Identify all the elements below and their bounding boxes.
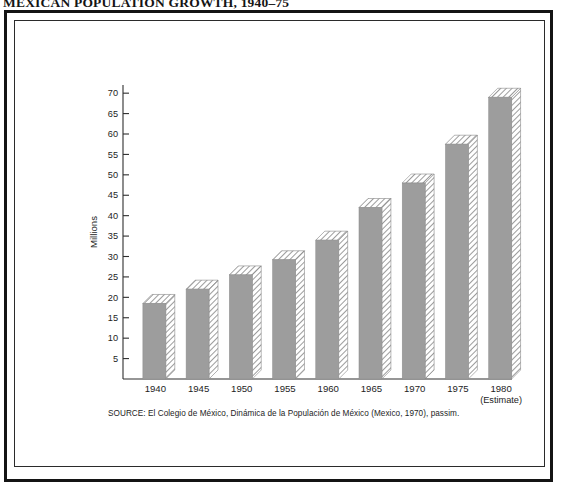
bar-side-face: [166, 294, 175, 379]
bar-series: [143, 88, 521, 379]
y-axis-tick-label: 70: [108, 88, 118, 98]
bar-side-face: [339, 231, 348, 379]
x-axis-tick-label: 1970: [404, 383, 425, 394]
y-axis: 510152025303540455055606570 Millions: [88, 85, 129, 379]
bar-front-face: [316, 240, 339, 379]
x-axis-tick-label: 1955: [274, 383, 295, 394]
bar-side-face: [209, 280, 218, 379]
bar-1975: [445, 135, 477, 379]
bar-side-face: [295, 251, 304, 379]
bar-1950: [229, 266, 261, 379]
x-axis-tick-sublabel: (Estimate): [480, 395, 522, 405]
bar-front-face: [273, 260, 296, 379]
bar-1980: [489, 88, 521, 379]
bar-front-face: [359, 208, 382, 380]
bar-side-face: [425, 174, 434, 379]
bar-side-face: [468, 135, 477, 379]
y-axis-tick-label: 60: [108, 129, 118, 139]
x-axis-tick-label: 1950: [231, 383, 252, 394]
x-axis: 194019451950195519601965197019751980(Est…: [123, 379, 522, 405]
bar-1955: [273, 251, 305, 379]
y-axis-ticks: [123, 93, 129, 358]
y-axis-tick-label: 20: [108, 293, 118, 303]
bar-front-face: [229, 275, 252, 379]
y-axis-title: Millions: [88, 216, 99, 248]
bar-1945: [186, 280, 218, 379]
x-axis-tick-labels: 194019451950195519601965197019751980(Est…: [145, 383, 522, 405]
bar-front-face: [143, 303, 166, 379]
source-note: SOURCE: El Colegio de México, Dinámica d…: [108, 409, 459, 418]
y-axis-tick-label: 10: [108, 333, 118, 343]
x-axis-tick-label: 1960: [318, 383, 339, 394]
y-axis-tick-label: 35: [108, 231, 118, 241]
y-axis-tick-label: 55: [108, 150, 118, 160]
y-axis-tick-label: 30: [108, 252, 118, 262]
y-axis-tick-label: 45: [108, 190, 118, 200]
bar-side-face: [382, 199, 391, 380]
x-axis-tick-label: 1975: [447, 383, 468, 394]
y-axis-tick-label: 15: [108, 313, 118, 323]
y-axis-tick-label: 25: [108, 272, 118, 282]
bar-front-face: [445, 144, 468, 379]
x-axis-tick-label: 1965: [361, 383, 382, 394]
bar-front-face: [186, 289, 209, 379]
bar-1965: [359, 199, 391, 380]
y-axis-tick-label: 5: [113, 354, 118, 364]
bar-1970: [402, 174, 434, 379]
y-axis-tick-label: 65: [108, 109, 118, 119]
y-axis-tick-label: 50: [108, 170, 118, 180]
bar-front-face: [489, 97, 512, 379]
bar-1960: [316, 231, 348, 379]
bar-side-face: [252, 266, 261, 379]
y-axis-tick-label: 40: [108, 211, 118, 221]
x-axis-tick-label: 1980: [490, 383, 511, 394]
bar-side-face: [512, 88, 521, 379]
x-axis-tick-label: 1945: [188, 383, 209, 394]
bar-front-face: [402, 183, 425, 379]
x-axis-tick-label: 1940: [145, 383, 166, 394]
y-axis-tick-labels: 510152025303540455055606570: [108, 88, 118, 363]
bar-1940: [143, 294, 175, 379]
